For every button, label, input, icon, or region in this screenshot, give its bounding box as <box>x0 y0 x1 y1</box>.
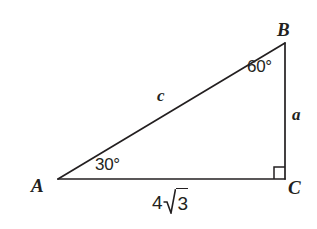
vertex-label-c: C <box>288 178 301 197</box>
geometry-diagram: A B C c a 30° 60° 4 3 <box>0 0 317 229</box>
base-radicand: 3 <box>176 188 189 213</box>
radical-sign-icon <box>163 188 176 214</box>
angle-label-b-60: 60° <box>247 58 272 75</box>
vertex-label-b: B <box>277 20 290 39</box>
right-angle-marker-icon <box>274 167 285 179</box>
side-label-a: a <box>292 106 301 123</box>
angle-label-a-30: 30° <box>95 156 120 173</box>
radical-group: 3 <box>163 188 189 214</box>
base-coefficient: 4 <box>152 188 163 212</box>
base-length-label: 4 3 <box>152 188 188 214</box>
vertex-label-a: A <box>31 176 44 195</box>
side-label-c: c <box>157 87 165 104</box>
